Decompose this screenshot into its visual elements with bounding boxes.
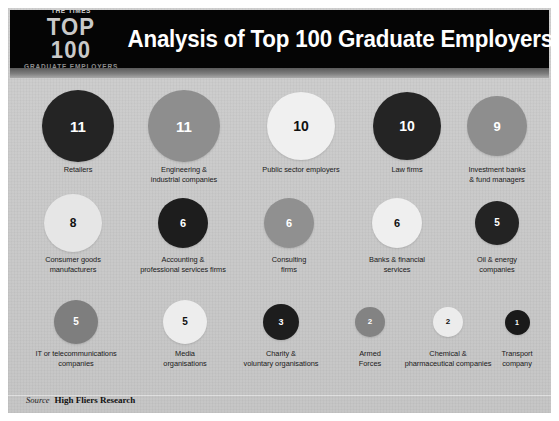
source-name: High Fliers Research <box>55 395 136 405</box>
bubble-item: 6Accounting & professional services firm… <box>123 192 243 275</box>
bubble-chart: 11Retailers11Engineering & industrial co… <box>8 80 551 385</box>
bubble-label: Media organisations <box>142 349 228 369</box>
bubble-circle: 2 <box>355 307 385 337</box>
header-shadow-band <box>10 68 549 78</box>
bubble-circle-wrap: 5 <box>455 192 539 254</box>
bubble-label: Law firms <box>362 165 452 175</box>
bubble-label: Accounting & professional services firms <box>123 255 243 275</box>
bubble-label: Retailers <box>30 165 126 175</box>
bubble-value: 6 <box>286 218 292 229</box>
bubble-item: 6Consulting firms <box>249 192 329 275</box>
bubble-circle-wrap: 3 <box>224 296 338 348</box>
bubble-label: Investment banks & fund managers <box>448 165 546 185</box>
bubble-circle: 5 <box>163 300 207 344</box>
source-label: Source <box>26 395 50 405</box>
bubble-item: 1Transport company <box>486 296 548 369</box>
bubble-item: 10Public sector employers <box>245 88 357 175</box>
bubble-value: 11 <box>176 119 192 134</box>
bubble-label: Public sector employers <box>245 165 357 175</box>
bubble-circle-wrap: 6 <box>249 192 329 254</box>
bubble-circle: 5 <box>54 300 98 344</box>
bubble-item: 11Engineering & industrial companies <box>132 88 236 185</box>
bubble-item: 5IT or telecommunications companies <box>17 296 135 369</box>
bubble-circle-wrap: 10 <box>362 88 452 164</box>
bubble-circle: 9 <box>467 96 527 156</box>
bubble-item: 8Consumer goods manufacturers <box>24 192 122 275</box>
bubble-value: 5 <box>182 317 188 327</box>
page-title: Analysis of Top 100 Graduate Employers i… <box>118 26 559 53</box>
bubble-label: IT or telecommunications companies <box>17 349 135 369</box>
bubble-circle: 10 <box>267 92 335 160</box>
bubble-circle: 11 <box>42 90 114 162</box>
bubble-item: 10Law firms <box>362 88 452 175</box>
bubble-circle: 6 <box>372 198 422 248</box>
bubble-item: 9Investment banks & fund managers <box>448 88 546 185</box>
bubble-circle: 8 <box>44 194 102 252</box>
bubble-value: 5 <box>494 218 500 228</box>
bubble-item: 11Retailers <box>30 88 126 175</box>
bubble-circle: 2 <box>433 307 463 337</box>
bubble-item: 5Media organisations <box>142 296 228 369</box>
bubble-circle: 11 <box>148 90 220 162</box>
bubble-value: 6 <box>394 218 400 229</box>
times-top100-logo: THE TIMES TOP 100 GRADUATE EMPLOYERS <box>10 8 118 70</box>
bubble-item: 6Banks & financial services <box>349 192 445 275</box>
bubble-circle-wrap: 11 <box>30 88 126 164</box>
bubble-circle-wrap: 5 <box>17 296 135 348</box>
source-footer: Source High Fliers Research <box>8 387 551 413</box>
bubble-value: 8 <box>70 217 77 229</box>
bubble-item: 3Charity & voluntary organisations <box>224 296 338 369</box>
bubble-circle-wrap: 8 <box>24 192 122 254</box>
bubble-label: Consulting firms <box>249 255 329 275</box>
bubble-value: 3 <box>278 318 283 327</box>
bubble-label: Banks & financial services <box>349 255 445 275</box>
bubble-label: Engineering & industrial companies <box>132 165 236 185</box>
bubble-circle: 1 <box>505 310 530 335</box>
bubble-value: 1 <box>515 319 519 326</box>
bubble-circle: 3 <box>263 304 299 340</box>
bubble-circle-wrap: 9 <box>448 88 546 164</box>
header-banner: THE TIMES TOP 100 GRADUATE EMPLOYERS Ana… <box>10 10 549 68</box>
bubble-label: Charity & voluntary organisations <box>224 349 338 369</box>
bubble-circle-wrap: 5 <box>142 296 228 348</box>
bubble-value: 10 <box>293 119 309 133</box>
bubble-circle-wrap: 6 <box>123 192 243 254</box>
bubble-circle-wrap: 10 <box>245 88 357 164</box>
bubble-label: Oil & energy companies <box>455 255 539 275</box>
bubble-circle: 10 <box>373 92 441 160</box>
bubble-value: 11 <box>70 119 86 134</box>
logo-top100-text: TOP 100 <box>26 16 116 62</box>
bubble-value: 10 <box>399 119 415 133</box>
bubble-value: 2 <box>368 318 372 326</box>
bubble-circle: 6 <box>264 198 314 248</box>
bubble-label: Transport company <box>486 349 548 369</box>
bubble-value: 5 <box>73 317 79 327</box>
bubble-circle-wrap: 1 <box>486 296 548 348</box>
bubble-value: 6 <box>180 218 186 229</box>
infographic-poster: THE TIMES TOP 100 GRADUATE EMPLOYERS Ana… <box>8 8 551 413</box>
bubble-value: 9 <box>493 120 500 133</box>
bubble-circle-wrap: 6 <box>349 192 445 254</box>
bubble-item: 5Oil & energy companies <box>455 192 539 275</box>
bubble-circle-wrap: 11 <box>132 88 236 164</box>
bubble-circle: 6 <box>158 198 208 248</box>
bubble-value: 2 <box>446 318 450 326</box>
bubble-circle: 5 <box>475 201 519 245</box>
bubble-label: Consumer goods manufacturers <box>24 255 122 275</box>
